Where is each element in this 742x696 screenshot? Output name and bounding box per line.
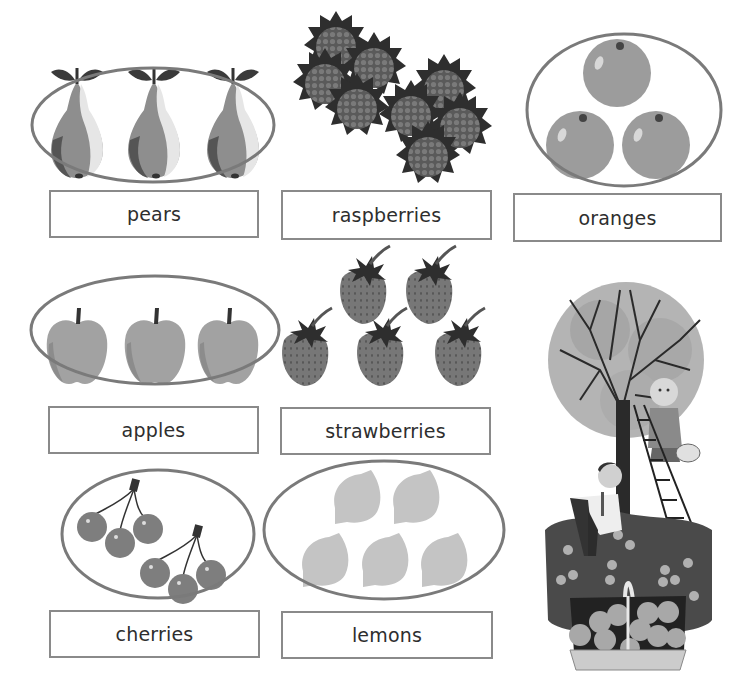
label-raspberries: raspberries [281,190,492,240]
raspberries-group [293,11,492,183]
label-oranges: oranges [513,193,722,242]
label-lemons: lemons [281,611,493,659]
cherries-group [62,470,254,604]
label-strawberries: strawberries [280,407,491,455]
fruit-picking-illustration [545,282,712,670]
oranges-group [527,34,721,186]
worksheet: pears raspberries oranges apples strawbe… [0,0,742,696]
apples-group [31,276,279,384]
lemons-group [264,461,504,599]
strawberries-group [282,246,485,386]
fruit-illustrations [0,0,742,696]
label-apples: apples [48,406,259,454]
label-cherries: cherries [49,610,260,658]
label-pears: pears [49,190,259,238]
pears-group [32,68,274,182]
